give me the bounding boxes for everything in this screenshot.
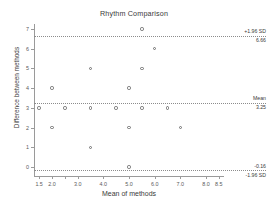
data-point xyxy=(50,126,53,129)
reference-label-mean-name: Mean xyxy=(253,95,266,101)
data-point xyxy=(153,47,156,50)
x-tick-label: 2.0 xyxy=(42,181,62,188)
x-tick-mark xyxy=(52,176,53,179)
x-tick-mark xyxy=(39,176,40,179)
x-tick-label: 7.0 xyxy=(170,181,190,188)
data-point xyxy=(89,146,92,149)
data-point xyxy=(127,86,130,89)
x-tick-label: 6.0 xyxy=(145,181,165,188)
x-tick-mark xyxy=(78,176,79,179)
x-tick-label: 5.0 xyxy=(119,181,139,188)
x-tick-label: 3.0 xyxy=(68,181,88,188)
chart-title: Rhythm Comparison xyxy=(0,9,268,18)
data-point xyxy=(179,126,182,129)
data-point xyxy=(37,106,40,109)
x-tick-mark xyxy=(103,176,104,179)
x-tick-mark xyxy=(65,176,66,179)
data-point xyxy=(63,106,66,109)
data-point xyxy=(166,106,169,109)
reference-label-mean-value: 3.25 xyxy=(256,104,266,110)
data-point xyxy=(127,126,130,129)
data-point xyxy=(50,86,53,89)
data-point xyxy=(127,165,130,168)
y-tick-label: 0 xyxy=(14,164,29,170)
bland-altman-chart: Rhythm Comparison 01234567 1.52.03.04.05… xyxy=(0,0,268,206)
x-tick-label: 8.5 xyxy=(209,181,229,188)
y-axis-title: Difference between methods xyxy=(13,23,20,153)
data-point xyxy=(89,67,92,70)
x-tick-mark xyxy=(129,176,130,179)
data-point xyxy=(140,106,143,109)
data-point xyxy=(114,106,117,109)
x-tick-label: 4.0 xyxy=(93,181,113,188)
reference-label-upper-loa-name: +1.96 SD xyxy=(244,28,266,34)
data-point xyxy=(140,27,143,30)
scatter-points-layer xyxy=(34,24,224,176)
x-tick-mark xyxy=(219,176,220,179)
reference-label-lower-loa-value: -0.16 xyxy=(254,163,266,169)
x-axis-title: Mean of methods xyxy=(34,190,224,197)
data-point xyxy=(140,67,143,70)
data-point xyxy=(89,106,92,109)
reference-label-upper-loa-value: 6.66 xyxy=(256,37,266,43)
x-tick-mark xyxy=(155,176,156,179)
reference-label-lower-loa-name: -1.96 SD xyxy=(246,172,266,178)
x-tick-mark xyxy=(180,176,181,179)
x-tick-mark xyxy=(206,176,207,179)
